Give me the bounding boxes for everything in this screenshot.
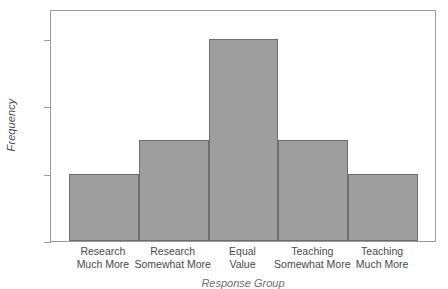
bar	[209, 39, 279, 241]
bar	[278, 140, 348, 241]
y-axis-title: Frequency	[5, 10, 19, 240]
bar	[139, 140, 209, 241]
x-tick-label: Teaching Much More	[327, 245, 437, 270]
x-axis-title: Response Group	[50, 277, 436, 289]
plot-area	[50, 10, 436, 242]
bar	[69, 174, 139, 241]
y-tick-mark	[44, 242, 51, 243]
bar	[348, 174, 418, 241]
